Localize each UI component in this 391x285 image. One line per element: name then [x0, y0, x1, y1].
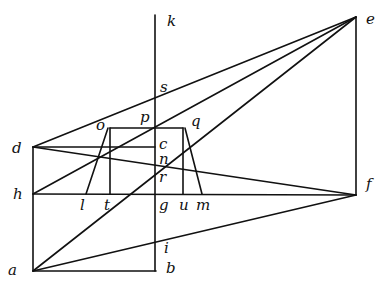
label-u: u — [179, 196, 189, 214]
label-d: d — [12, 139, 22, 157]
label-g: g — [159, 196, 169, 214]
line-d-f — [33, 147, 356, 195]
label-a: a — [8, 261, 17, 279]
line-m-q — [185, 128, 202, 194]
label-f: f — [365, 175, 374, 193]
label-k: k — [167, 12, 176, 30]
diagram: k e s p o q d c n h r f l t g u m i a b — [0, 0, 391, 285]
label-r: r — [159, 168, 167, 186]
label-i: i — [164, 239, 169, 257]
label-e: e — [366, 10, 375, 28]
label-p: p — [140, 108, 150, 126]
label-b: b — [166, 259, 176, 277]
label-l: l — [80, 196, 85, 214]
label-m: m — [196, 196, 210, 214]
label-t: t — [104, 196, 111, 214]
label-q: q — [191, 112, 201, 130]
line-h-f — [33, 194, 356, 195]
label-h: h — [13, 185, 23, 203]
label-n: n — [159, 150, 169, 168]
label-s: s — [160, 78, 168, 96]
label-o: o — [96, 116, 105, 134]
line-l-o — [86, 128, 108, 194]
